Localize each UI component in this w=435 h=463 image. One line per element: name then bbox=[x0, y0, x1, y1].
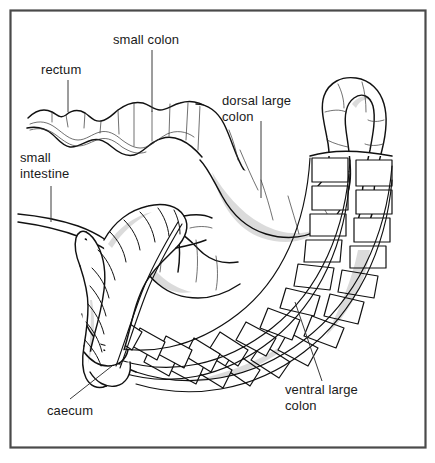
label-ventral-large-colon-line-1: ventral large bbox=[285, 382, 358, 397]
label-small-intestine-line-1: small bbox=[20, 150, 51, 165]
intestine-diagram: rectum small colon dorsal large colon sm… bbox=[0, 0, 435, 463]
label-dorsal-large-colon-line-1: dorsal large bbox=[222, 93, 291, 108]
label-caecum-line-1: caecum bbox=[47, 403, 93, 418]
figure-root: rectum small colon dorsal large colon sm… bbox=[0, 0, 435, 463]
label-rectum-line-1: rectum bbox=[41, 62, 81, 77]
label-ventral-large-colon-line-2: colon bbox=[285, 398, 317, 413]
label-dorsal-large-colon-line-2: colon bbox=[222, 109, 254, 124]
label-rectum: rectum bbox=[41, 62, 81, 77]
label-small-colon-line-1: small colon bbox=[113, 32, 179, 47]
label-caecum: caecum bbox=[47, 403, 93, 418]
label-small-colon: small colon bbox=[113, 32, 179, 47]
label-small-intestine-line-2: intestine bbox=[20, 166, 69, 181]
